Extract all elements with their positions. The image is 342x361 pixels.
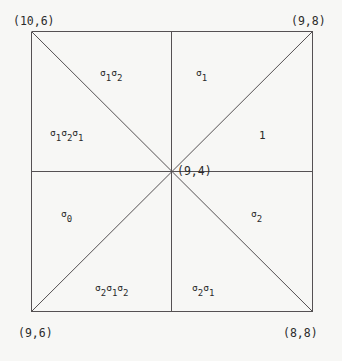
corner-label-top-left: (10,6)	[13, 16, 55, 28]
corner-label-bottom-left: (9,6)	[18, 328, 53, 340]
region-label-upper-right-upper: σ1	[196, 69, 207, 80]
region-label-upper-left-lower: σ1σ2σ1	[50, 129, 83, 140]
region-label-upper-right-lower: 1	[259, 130, 266, 141]
region-label-upper-left-upper: σ1σ2	[100, 69, 122, 80]
region-label-lower-left-lower: σ2σ1σ2	[95, 284, 128, 295]
diagram-canvas: (10,6) (9,8) (9,6) (8,8) (9,4) σ1σ2 σ1 σ…	[0, 0, 342, 361]
center-point-label: (9,4)	[177, 166, 212, 178]
region-label-lower-left-upper: σ0	[61, 210, 72, 221]
region-label-lower-right-lower: σ2σ1	[192, 284, 214, 295]
corner-label-top-right: (9,8)	[291, 16, 326, 28]
square-chamber-figure	[0, 0, 342, 361]
corner-label-bottom-right: (8,8)	[283, 328, 318, 340]
region-label-lower-right-upper: σ2	[251, 210, 262, 221]
